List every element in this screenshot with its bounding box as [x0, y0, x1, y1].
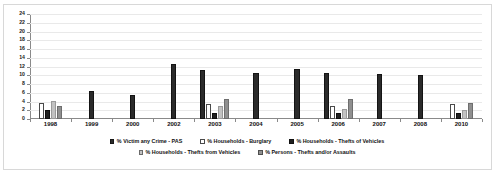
bar [171, 64, 176, 119]
bar [294, 69, 299, 119]
legend-item: % Persons - Thefts and/or Assaults [258, 150, 355, 155]
y-tick-label: 0 [22, 116, 25, 121]
bar-group [277, 14, 318, 119]
bar [45, 110, 50, 119]
legend-swatch-icon [289, 139, 294, 144]
bar [218, 106, 223, 119]
legend-label: % Victim any Crime - PAS [117, 139, 182, 144]
bar [39, 103, 44, 119]
bar-group [235, 14, 276, 119]
bar-group [112, 14, 153, 119]
bar-group [153, 14, 194, 119]
y-tick-label: 22 [19, 20, 25, 25]
legend-row-2: % Households - Thefts from Vehicles% Per… [12, 147, 482, 158]
bar [330, 106, 335, 119]
x-tick-label: 2008 [414, 121, 427, 127]
bar [462, 110, 467, 119]
bar-group [194, 14, 235, 119]
bar-group [318, 14, 359, 119]
legend-swatch-icon [200, 139, 205, 144]
y-tick-label: 6 [22, 90, 25, 95]
bar-group [441, 14, 482, 119]
bar [206, 104, 211, 119]
bar [200, 70, 205, 119]
y-tick-label: 24 [19, 11, 25, 16]
legend-item: % Households - Burglary [200, 139, 271, 144]
chart-container: 024681012141618202224 199819992000200220… [0, 0, 495, 175]
bar-group [71, 14, 112, 119]
x-tick-label: 2005 [290, 121, 303, 127]
legend-label: % Households - Thefts of Vehicles [296, 139, 384, 144]
bar [456, 113, 461, 119]
bar [253, 73, 258, 119]
y-tick-label: 14 [19, 55, 25, 60]
x-tick-mark [482, 119, 483, 122]
y-tick-label: 18 [19, 38, 25, 43]
x-tick-label: 2000 [126, 121, 139, 127]
bar [418, 75, 423, 119]
x-tick-label: 2006 [331, 121, 344, 127]
legend-item: % Victim any Crime - PAS [110, 139, 182, 144]
plot-area: 024681012141618202224 [30, 14, 482, 119]
x-tick-label: 2007 [373, 121, 386, 127]
y-tick-label: 8 [22, 81, 25, 86]
legend-swatch-icon [139, 150, 144, 155]
x-tick-label: 2002 [167, 121, 180, 127]
bar [377, 74, 382, 120]
bar [224, 99, 229, 119]
bar [348, 99, 353, 119]
y-tick-label: 2 [22, 108, 25, 113]
x-axis-labels: 1998199920002002200320042005200620072008… [30, 121, 482, 133]
y-tick-label: 16 [19, 46, 25, 51]
bar [89, 91, 94, 119]
bar-group [400, 14, 441, 119]
legend-label: % Households - Burglary [207, 139, 271, 144]
x-tick-label: 2004 [249, 121, 262, 127]
bar [324, 73, 329, 119]
x-tick-label: 2003 [208, 121, 221, 127]
x-tick-label: 1999 [85, 121, 98, 127]
y-tick-label: 4 [22, 99, 25, 104]
y-tick-label: 20 [19, 29, 25, 34]
y-tick-label: 12 [19, 64, 25, 69]
bar [57, 106, 62, 119]
bar [468, 103, 473, 119]
bar [212, 113, 217, 119]
bar [336, 113, 341, 119]
legend-item: % Households - Thefts from Vehicles [139, 150, 241, 155]
legend-label: % Persons - Thefts and/or Assaults [265, 150, 355, 155]
bar [130, 95, 135, 120]
legend-swatch-icon [110, 139, 115, 144]
legend-label: % Households - Thefts from Vehicles [146, 150, 241, 155]
legend-row-1: % Victim any Crime - PAS% Households - B… [12, 136, 482, 147]
bar [342, 109, 347, 120]
bar-group [359, 14, 400, 119]
x-tick-label: 1998 [44, 121, 57, 127]
y-tick-label: 10 [19, 73, 25, 78]
bar [51, 101, 56, 119]
legend-swatch-icon [258, 150, 263, 155]
chart-legend: % Victim any Crime - PAS% Households - B… [12, 136, 482, 158]
x-tick-label: 2010 [455, 121, 468, 127]
bar [450, 104, 455, 119]
bar-group [30, 14, 71, 119]
legend-item: % Households - Thefts of Vehicles [289, 139, 384, 144]
